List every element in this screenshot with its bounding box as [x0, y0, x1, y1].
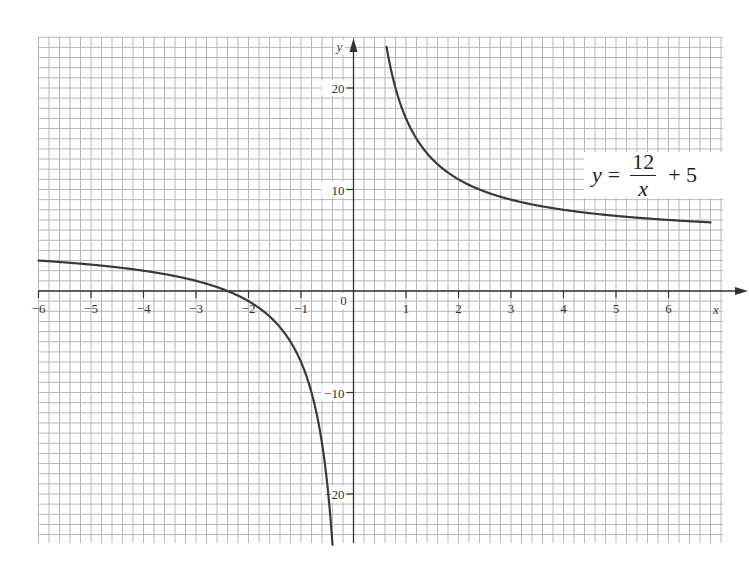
- x-tick-label: 3: [508, 301, 515, 316]
- x-tick-label: 2: [455, 301, 462, 316]
- x-tick-label: −4: [137, 301, 151, 316]
- x-tick-label: −1: [294, 301, 308, 316]
- hyperbola-chart: −6−5−4−3−2−11234562010−10−200yx: [0, 0, 749, 569]
- y-tick-label: 20: [332, 81, 345, 96]
- y-tick-label: 10: [332, 183, 345, 198]
- x-axis-label: x: [712, 302, 719, 317]
- equation-equals: =: [608, 162, 620, 188]
- equation-label: y = 12 x + 5: [584, 152, 730, 198]
- equation-numerator: 12: [630, 151, 656, 176]
- graph-paper-grid: [38, 37, 723, 543]
- x-tick-label: 6: [665, 301, 672, 316]
- x-tick-label: 5: [613, 301, 620, 316]
- x-tick-label: −6: [32, 301, 46, 316]
- y-tick-label: −10: [324, 386, 344, 401]
- equation-denominator: x: [638, 176, 648, 200]
- x-tick-label: −3: [189, 301, 203, 316]
- x-tick-label: 4: [560, 301, 567, 316]
- equation-lhs: y: [592, 162, 602, 188]
- y-axis-label: y: [335, 39, 343, 54]
- x-axis-arrow-icon: [735, 287, 748, 295]
- x-tick-label: −5: [84, 301, 98, 316]
- axes: [38, 38, 748, 543]
- equation-constant: + 5: [668, 162, 697, 188]
- y-axis-arrow-icon: [350, 38, 358, 52]
- x-tick-label: 1: [403, 301, 410, 316]
- equation-fraction: 12 x: [630, 151, 656, 200]
- origin-label: 0: [340, 293, 347, 308]
